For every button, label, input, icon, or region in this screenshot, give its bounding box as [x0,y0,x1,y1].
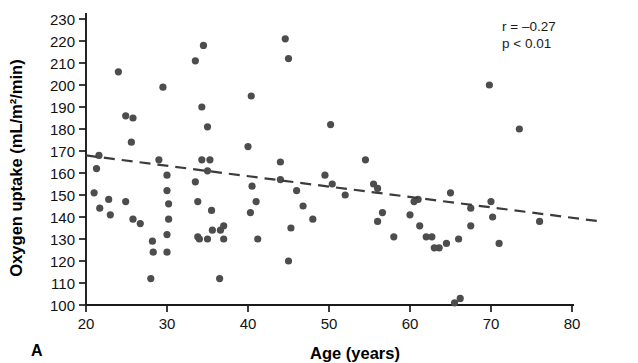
data-point [163,187,170,194]
data-point [390,233,397,240]
data-point [428,233,435,240]
data-point [163,231,170,238]
x-tick-label: 60 [402,315,419,332]
data-point [293,187,300,194]
y-tick-label: 160 [50,165,75,182]
data-point [443,240,450,247]
data-point [165,200,172,207]
data-point [204,235,211,242]
data-point [277,158,284,165]
y-tick-label: 100 [50,297,75,314]
y-tick-label: 210 [50,55,75,72]
data-point [198,103,205,110]
data-point [321,172,328,179]
data-point [93,165,100,172]
data-point [285,257,292,264]
data-point [285,55,292,62]
chart-axes [79,13,574,312]
data-point [115,68,122,75]
data-point [149,238,156,245]
data-point [147,275,154,282]
data-point [451,299,458,306]
data-point [329,180,336,187]
data-point [204,123,211,130]
data-point [105,196,112,203]
data-point [216,275,223,282]
data-point [198,156,205,163]
data-point [362,156,369,163]
y-tick-label: 230 [50,11,75,28]
data-point [206,156,213,163]
data-point [374,218,381,225]
y-tick-label: 110 [51,275,75,292]
data-point [163,172,170,179]
data-point [220,222,227,229]
data-point [457,295,464,302]
x-tick-label: 40 [240,315,257,332]
y-tick-label: 200 [50,77,75,94]
data-point-layer [91,35,544,306]
data-point [159,84,166,91]
data-point [244,143,251,150]
data-point [516,125,523,132]
y-tick-label: 170 [50,143,75,160]
data-point [406,211,413,218]
x-tick-label: 30 [159,315,176,332]
data-point [248,183,255,190]
data-point [489,213,496,220]
data-point [200,42,207,49]
data-point [248,92,255,99]
data-point [122,112,129,119]
y-tick-label: 150 [50,187,75,204]
data-point [253,198,260,205]
data-point [194,198,201,205]
data-point [496,240,503,247]
data-point [247,209,254,216]
chart-tick-labels: 1001101201301401501601701801902002102202… [50,11,580,333]
data-point [254,235,261,242]
oxygen-uptake-vs-age-chart: 1001101201301401501601701801902002102202… [0,0,638,363]
trend-line [86,155,600,221]
data-point [150,249,157,256]
y-tick-label: 190 [50,99,75,116]
x-tick-label: 80 [564,315,581,332]
data-point [220,235,227,242]
y-tick-label: 140 [50,209,75,226]
x-tick-label: 50 [321,315,338,332]
data-point [309,216,316,223]
data-point [196,235,203,242]
data-point [487,198,494,205]
data-point [137,220,144,227]
data-point [129,216,136,223]
data-point [91,189,98,196]
data-point [447,189,454,196]
data-point [107,211,114,218]
data-point [287,224,294,231]
regression-trend-line [86,155,600,221]
y-tick-label: 180 [50,121,75,138]
data-point [204,167,211,174]
data-point [467,222,474,229]
data-point [96,205,103,212]
data-point [165,216,172,223]
data-point [379,209,386,216]
data-point [455,235,462,242]
data-point [536,218,543,225]
data-point [163,249,170,256]
scatter-plot-figure: 1001101201301401501601701801902002102202… [0,0,638,363]
data-point [209,227,216,234]
y-tick-label: 130 [50,231,75,248]
x-tick-label: 20 [78,315,95,332]
data-point [486,81,493,88]
data-point [192,57,199,64]
x-tick-label: 70 [483,315,500,332]
y-tick-label: 220 [50,33,75,50]
data-point [374,185,381,192]
data-point [95,152,102,159]
data-point [129,114,136,121]
y-tick-label: 120 [50,253,75,270]
data-point [122,198,129,205]
data-point [342,191,349,198]
data-point [416,222,423,229]
data-point [128,139,135,146]
